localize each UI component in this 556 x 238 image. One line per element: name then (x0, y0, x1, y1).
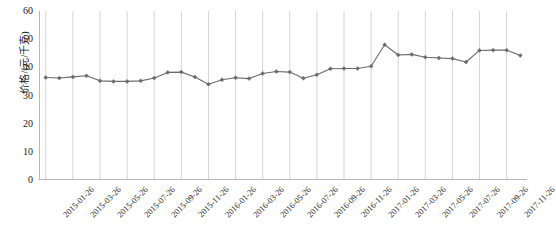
line-chart: 价格/(元/千克) 0102030405060 2015-01-262015-0… (0, 0, 531, 238)
x-axis-tick-labels: 2015-01-262015-03-262015-05-262015-07-26… (0, 0, 531, 238)
